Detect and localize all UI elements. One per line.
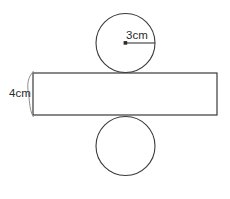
circle-center-dot	[124, 41, 128, 45]
radius-label: 3cm	[126, 29, 148, 41]
height-label: 4cm	[9, 87, 31, 99]
rectangle-face	[33, 73, 217, 115]
geometry-diagram: 3cm 4cm	[0, 0, 230, 199]
bottom-circle	[96, 117, 155, 176]
cylinder-net-svg: 3cm 4cm	[0, 0, 230, 199]
